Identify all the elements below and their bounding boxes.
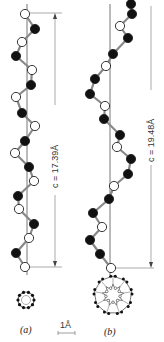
filled-atom bbox=[90, 74, 99, 83]
filled-atom bbox=[29, 219, 38, 228]
arrow-down-icon bbox=[53, 261, 57, 267]
open-atom bbox=[17, 37, 26, 46]
open-atom bbox=[20, 9, 29, 18]
open-atom bbox=[10, 148, 19, 157]
filled-atom bbox=[88, 208, 97, 217]
open-atom bbox=[115, 21, 124, 30]
filled-atom bbox=[104, 194, 113, 203]
open-atom bbox=[29, 176, 38, 185]
filled-atom bbox=[20, 136, 29, 145]
filled-atom bbox=[26, 80, 35, 89]
projection-a bbox=[16, 291, 35, 309]
panel-label-a: (a) bbox=[20, 324, 32, 335]
projection-b bbox=[93, 275, 134, 315]
scale-bar-label: 1Å bbox=[60, 320, 71, 330]
filled-atom bbox=[108, 49, 117, 58]
open-atom bbox=[24, 233, 33, 242]
open-atom bbox=[106, 263, 115, 272]
open-atom bbox=[97, 222, 106, 231]
filled-atom bbox=[85, 89, 94, 98]
filled-atom bbox=[95, 249, 104, 258]
filled-atom bbox=[126, 0, 135, 9]
open-atom bbox=[11, 92, 20, 101]
filled-atom bbox=[11, 248, 20, 257]
filled-atom bbox=[13, 191, 22, 200]
filled-atom bbox=[127, 9, 136, 18]
period-label-b: c = 19.48Å bbox=[146, 119, 156, 162]
helix-b-atoms bbox=[85, 0, 136, 273]
filled-atom bbox=[11, 51, 20, 60]
filled-atom bbox=[17, 108, 26, 117]
filled-atom bbox=[30, 24, 39, 33]
scale-bar bbox=[58, 331, 75, 335]
open-atom bbox=[100, 101, 109, 110]
filled-atom bbox=[123, 169, 132, 178]
filled-atom bbox=[85, 235, 94, 244]
period-label-a: c = 17.39Å bbox=[50, 145, 60, 188]
arrow-down-icon bbox=[149, 262, 153, 268]
open-atom bbox=[20, 262, 29, 271]
filled-atom bbox=[115, 130, 124, 139]
filled-atom bbox=[99, 114, 108, 123]
open-atom bbox=[14, 204, 23, 213]
helix-b-bonds bbox=[90, 4, 132, 268]
filled-atom bbox=[126, 154, 135, 163]
filled-atom bbox=[24, 162, 33, 171]
open-atom bbox=[112, 142, 121, 151]
helix-a-atoms bbox=[10, 9, 39, 271]
panel-label-b: (b) bbox=[104, 326, 116, 337]
arrow-up-icon bbox=[53, 13, 57, 19]
open-atom bbox=[30, 121, 39, 130]
helix-diagram bbox=[0, 0, 164, 342]
open-atom bbox=[27, 65, 36, 74]
filled-atom bbox=[123, 33, 132, 42]
open-atom bbox=[101, 61, 110, 70]
open-atom bbox=[109, 181, 118, 190]
